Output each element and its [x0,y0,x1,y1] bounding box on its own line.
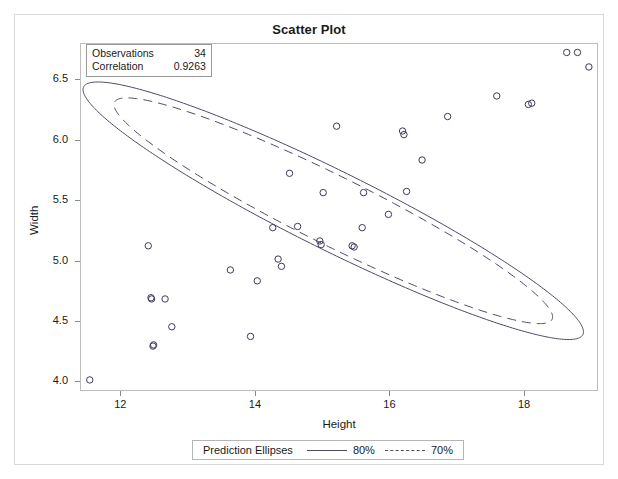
legend-title: Prediction Ellipses [203,444,297,456]
observations-value: 34 [168,47,206,60]
data-point [318,241,324,247]
observations-row: Observations 34 [92,47,206,60]
x-tick-label: 18 [509,398,539,410]
y-tick-mark [75,261,80,262]
legend-label-70: 70% [431,444,453,456]
data-point [359,224,365,230]
y-tick-label: 6.0 [32,133,68,145]
data-point [586,64,592,70]
y-tick-label: 5.5 [32,193,68,205]
plot-canvas [81,44,599,392]
y-axis-title: Width [28,206,40,235]
y-tick-label: 4.5 [32,314,68,326]
data-point [360,189,366,195]
x-tick-label: 14 [240,398,270,410]
data-point [574,49,580,55]
y-tick-mark [75,200,80,201]
legend-dashed-line-icon [385,450,425,451]
y-tick-mark [75,321,80,322]
data-point [227,267,233,273]
plot-area [80,43,598,391]
prediction-ellipses [83,82,583,340]
legend-entry-70: 70% [385,444,453,456]
data-point [162,296,168,302]
observations-label: Observations [92,47,168,60]
y-tick-label: 6.5 [32,72,68,84]
y-tick-mark [75,140,80,141]
data-point [494,93,500,99]
data-point [333,123,339,129]
data-point [564,49,570,55]
y-tick-label: 4.0 [32,374,68,386]
data-point [401,131,407,137]
correlation-label: Correlation [92,60,157,73]
x-tick-mark [524,391,525,396]
data-point [87,377,93,383]
data-point [419,157,425,163]
legend-label-80: 80% [353,444,375,456]
x-tick-mark [389,391,390,396]
x-tick-label: 12 [105,398,135,410]
data-point [254,278,260,284]
top-margin [0,0,618,13]
x-tick-mark [255,391,256,396]
correlation-row: Correlation 0.9263 [92,60,206,73]
page-title: Scatter Plot [0,22,618,37]
legend: Prediction Ellipses 80% 70% [192,440,464,460]
data-point [145,243,151,249]
legend-entry-80: 80% [307,444,375,456]
data-point [275,256,281,262]
x-axis-title: Height [80,418,598,430]
y-tick-label: 5.0 [32,254,68,266]
data-point [320,189,326,195]
prediction-ellipse-70 [114,98,553,324]
prediction-ellipse-80 [83,82,583,340]
chart-page: Scatter Plot Width 4.04.55.05.56.06.5 12… [0,0,618,479]
data-point [403,188,409,194]
legend-solid-line-icon [307,450,347,451]
data-point [270,224,276,230]
data-point [286,170,292,176]
data-markers [87,49,593,383]
data-point [385,211,391,217]
data-point [399,128,405,134]
data-point [444,113,450,119]
y-tick-mark [75,79,80,80]
data-point [247,333,253,339]
data-point [294,223,300,229]
correlation-value: 0.9263 [168,60,206,73]
data-point [278,263,284,269]
data-point [169,324,175,330]
x-tick-mark [120,391,121,396]
statistics-inset: Observations 34 Correlation 0.9263 [86,44,212,77]
data-point [351,244,357,250]
x-tick-label: 16 [374,398,404,410]
y-tick-mark [75,381,80,382]
